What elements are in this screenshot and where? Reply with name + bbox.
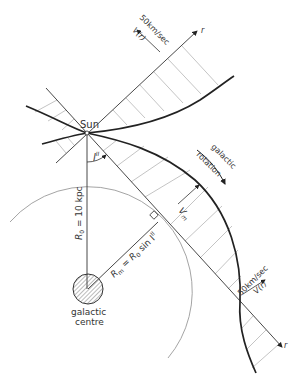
svg-text:Vm: Vm [176,206,192,222]
right-angle-marker [150,211,158,219]
vm-arrow [178,185,199,204]
svg-text:R0 = 10 kpc: R0 = 10 kpc [74,186,85,240]
sun-label: Sun [80,119,99,130]
diagram-canvas: Sun lII R0 = 10 kpc Rm = R0 sin lII Vm g… [0,0,295,383]
r-axis-label-bottom: r [284,341,288,350]
r0-label: R0 = 10 kpc [74,186,85,240]
vm-label: Vm [176,206,192,222]
solar-orbit-arc [10,187,192,358]
svg-text:50km/sec: 50km/sec [138,13,172,47]
sun-point [85,131,89,135]
galactic-centre [73,274,103,304]
longitude-label: lII [93,150,100,163]
hatch-upper-right [113,46,218,125]
galactic-centre-label-1: galactic [71,307,106,317]
scale-label-bottom: 50km/sec V(r) [236,264,277,305]
scale-label-top: 50km/sec V(r) [128,13,172,57]
rm-label: Rm = R0 sin lII [107,230,160,281]
galactic-centre-label-2: centre [75,317,104,327]
galactic-rotation-label: galactic rotation [195,139,238,182]
r-axis-label-top: r [201,26,205,35]
svg-text:V(r): V(r) [131,26,148,43]
svg-text:Rm = R0 sin lII: Rm = R0 sin lII [107,230,160,281]
